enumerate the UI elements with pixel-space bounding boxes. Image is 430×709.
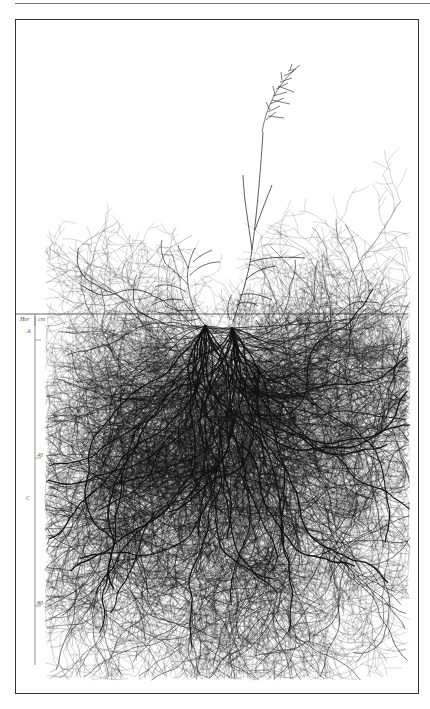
plant-drawing (0, 0, 430, 709)
horizon-header: Hor (20, 316, 30, 322)
panicle-icon (262, 64, 300, 132)
depth-40-label: 40 (37, 452, 43, 458)
unit-header: cm (38, 316, 45, 322)
stem-icon (233, 132, 305, 322)
horizon-a-label: A (27, 328, 31, 334)
root-system-icon (45, 147, 410, 680)
depth-80-label: 80 (37, 600, 43, 606)
horizon-c-label: C (26, 495, 30, 501)
